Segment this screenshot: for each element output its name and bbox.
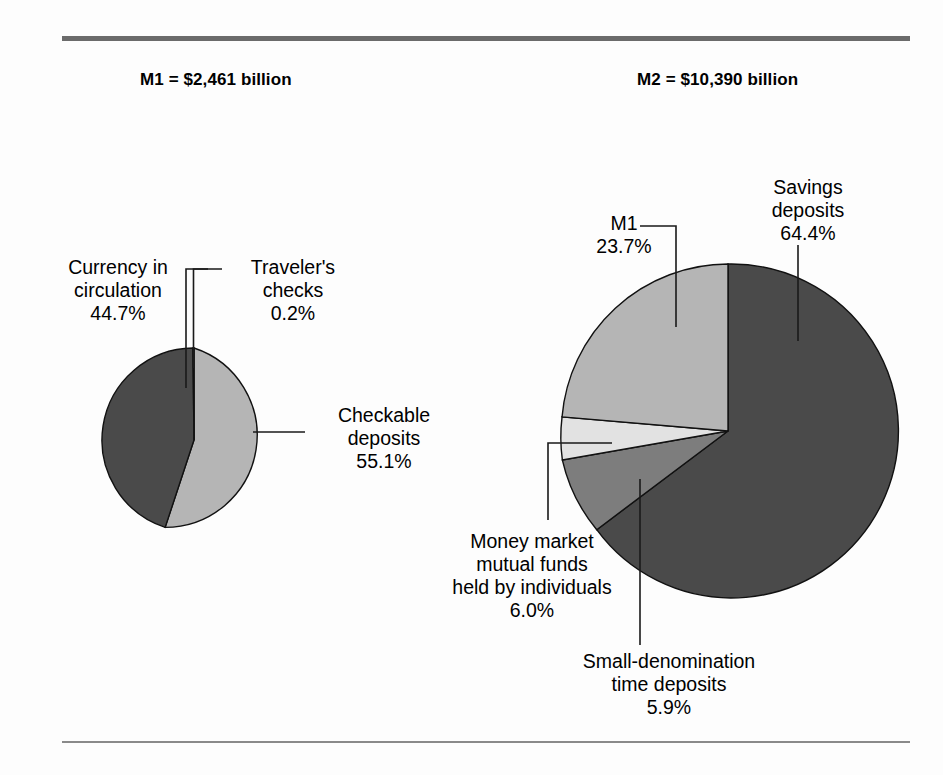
label-currency-in-circulation: Currency in circulation 44.7% [34, 256, 202, 325]
bottom-rule [62, 741, 910, 743]
label-savings-deposits: Savings deposits 64.4% [728, 176, 888, 245]
slice-checkable-deposits [165, 348, 257, 527]
label-small-denomination-time-deposits: Small-denomination time deposits 5.9% [546, 650, 792, 719]
panel-title-m2: M2 = $10,390 billion [637, 70, 798, 90]
label-travelers-checks: Traveler's checks 0.2% [218, 256, 368, 325]
label-checkable-deposits: Checkable deposits 55.1% [300, 404, 468, 473]
label-m1: M1 23.7% [564, 212, 684, 258]
slice-m1 [562, 264, 728, 431]
label-money-market-mutual-funds: Money market mutual funds held by indivi… [406, 530, 658, 622]
panel-title-m1: M1 = $2,461 billion [140, 70, 292, 90]
figure-canvas: M1 = $2,461 billion M2 = $10,390 billion [0, 0, 943, 775]
slice-money-market-mutual-funds [561, 417, 728, 460]
slice-currency-in-circulation [102, 348, 194, 527]
slice-travelers-checks [193, 348, 194, 440]
leader-mmmf [548, 443, 612, 520]
slice-small-denomination-time-deposits [562, 431, 728, 530]
pie-left-m1 [102, 348, 257, 527]
top-rule [62, 36, 910, 41]
pie-charts-svg [0, 0, 943, 775]
